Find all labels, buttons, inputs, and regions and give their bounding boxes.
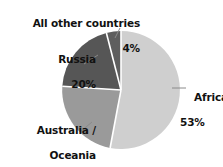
pie-label-australia-oceania: Australia / Oceania 23%: [2, 112, 96, 167]
pie-label-russia-name: Russia: [58, 53, 96, 65]
pie-label-all-other-countries-name: All other countries: [33, 17, 140, 29]
pie-label-australia-oceania-line2: Oceania: [2, 149, 96, 161]
pie-label-africa-percent: 53%: [180, 116, 223, 128]
pie-label-africa: Africa 53%: [180, 79, 223, 153]
pie-chart: All other countries 4% Russia 20% Austra…: [0, 0, 223, 167]
pie-label-russia-percent: 20%: [24, 78, 96, 90]
pie-label-russia: Russia 20%: [24, 41, 96, 115]
pie-label-australia-oceania-line1: Australia /: [37, 124, 96, 136]
pie-label-africa-name: Africa: [194, 91, 223, 103]
